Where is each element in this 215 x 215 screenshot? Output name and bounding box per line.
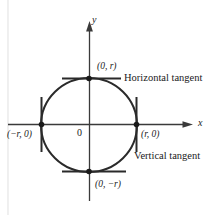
point-dot-right [134,122,140,128]
vertical-tangent-annotation: Vertical tangent [134,151,200,162]
point-dot-bottom [86,169,92,175]
point-dot-top [86,76,92,82]
point-label-bottom: (0, −r) [95,180,121,190]
point-label-right: (r, 0) [141,130,159,140]
origin-label: 0 [77,128,82,138]
x-axis-arrow-icon [183,121,194,128]
y-axis-label: y [92,15,96,25]
point-label-left: (−r, 0) [7,130,32,140]
circle-tangent-figure: y x 0 (0, r) (0, −r) (−r, 0) (r, 0) Hori… [0,0,215,215]
point-label-top: (0, r) [97,62,117,72]
x-axis-label: x [198,118,202,128]
horizontal-tangent-annotation: Horizontal tangent [124,73,202,84]
point-dot-left [39,122,45,128]
